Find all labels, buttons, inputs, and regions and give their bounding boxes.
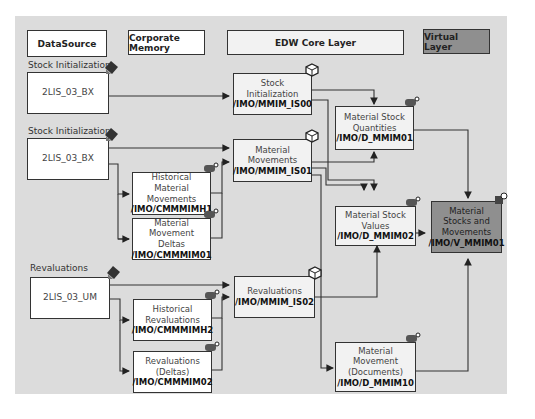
datasource-icon: [105, 265, 121, 281]
datasource-2lis-03-bx-2[interactable]: 2LIS_03_BX: [27, 138, 109, 180]
box-label: Material Stock: [344, 112, 405, 123]
technical-name: /IMO/V_MMIM01: [428, 238, 504, 249]
box-label: Movements: [147, 194, 196, 205]
box-label: Movements: [248, 155, 297, 166]
dso-icon: [405, 332, 421, 344]
technical-name: /IMO/D_MMIM02: [337, 231, 414, 242]
dso-icon: [204, 341, 220, 353]
datasource-icon: [103, 60, 119, 76]
box-label: Historical Material: [133, 172, 210, 193]
datasource-2lis-03-bx-1[interactable]: 2LIS_03_BX: [27, 72, 109, 114]
box-label: Quantities: [353, 123, 397, 134]
infosource-revaluations[interactable]: Revaluations /IMO/MMIM_IS02: [234, 276, 315, 318]
cm-revaluations-deltas[interactable]: Revaluations (Deltas) /IMO/CMMMIM02: [133, 351, 212, 393]
datasource-label: 2LIS_03_BX: [42, 153, 94, 164]
box-label: Stock Initialization: [234, 78, 311, 99]
technical-name: /IMO/MMIM_IS00: [233, 99, 312, 110]
technical-name: /IMO/CMMMIMH2: [132, 325, 213, 336]
dso-material-stock-values[interactable]: Material Stock Values /IMO/D_MMIM02: [335, 206, 416, 246]
datasource-2lis-03-um[interactable]: 2LIS_03_UM: [30, 277, 110, 319]
box-label: Material: [358, 346, 393, 357]
dso-icon: [203, 162, 219, 174]
box-label: Material: [255, 145, 290, 156]
dso-icon: [204, 289, 220, 301]
box-label: Values: [362, 221, 390, 232]
datasource-label: 2LIS_03_UM: [43, 292, 97, 303]
box-label: Material Stock: [345, 210, 406, 221]
cm-historical-revaluations[interactable]: Historical Revaluations /IMO/CMMMIMH2: [133, 299, 212, 341]
box-label: Movement: [353, 356, 398, 367]
cm-historical-material-movements[interactable]: Historical Material Movements /IMO/CMMMI…: [132, 172, 211, 215]
box-label: Deltas: [158, 239, 185, 250]
virtual-provider-icon: [494, 192, 508, 206]
dso-icon: [405, 196, 421, 208]
dso-icon: [203, 208, 219, 220]
technical-name: /IMO/MMIM_IS02: [235, 297, 314, 308]
box-label: Revaluations: [247, 286, 302, 297]
infosource-icon: [305, 63, 319, 77]
virtual-material-stocks-and-movements[interactable]: Material Stocks and Movements /IMO/V_MMI…: [431, 201, 502, 253]
box-label: Material: [449, 206, 484, 217]
cm-material-movement-deltas[interactable]: Material Movement Deltas /IMO/CMMMIM01: [132, 218, 211, 260]
box-label: Movements: [442, 227, 491, 238]
box-label: Material Movement: [133, 218, 210, 239]
box-label: Revaluations: [145, 315, 200, 326]
infosource-icon: [305, 129, 319, 143]
box-label: (Documents): [348, 367, 403, 378]
dso-material-movement-documents[interactable]: Material Movement (Documents) /IMO/D_MMI…: [335, 342, 416, 392]
datasource-icon: [103, 127, 119, 143]
technical-name: /IMO/CMMMIMH1: [131, 204, 212, 215]
technical-name: /IMO/MMIM_IS01: [233, 166, 312, 177]
dso-material-stock-quantities[interactable]: Material Stock Quantities /IMO/D_MMIM01: [335, 106, 414, 150]
infosource-icon: [308, 266, 322, 280]
technical-name: /IMO/CMMMIM02: [132, 377, 212, 388]
box-label: Historical: [153, 304, 193, 315]
box-label: Stocks and: [443, 216, 490, 227]
infosource-stock-initialization[interactable]: Stock Initialization /IMO/MMIM_IS00: [233, 73, 312, 115]
dso-icon: [404, 96, 420, 108]
infosource-material-movements[interactable]: Material Movements /IMO/MMIM_IS01: [233, 139, 312, 182]
box-label: Revaluations: [145, 356, 200, 367]
technical-name: /IMO/D_MMIM01: [336, 133, 413, 144]
technical-name: /IMO/CMMMIM01: [131, 250, 211, 261]
technical-name: /IMO/D_MMIM10: [337, 378, 414, 389]
box-label: (Deltas): [156, 367, 190, 378]
datasource-label: 2LIS_03_BX: [42, 87, 94, 98]
